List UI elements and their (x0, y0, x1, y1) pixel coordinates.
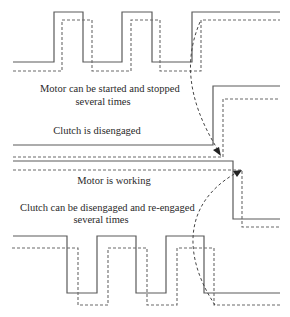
clutch-signal-dashed-top (13, 20, 280, 71)
clutch-disengaged-label: Clutch is disengaged (40, 125, 154, 137)
motor-start-stop-label-line1: Motor can be started and stopped (40, 83, 166, 95)
clutch-reengage-label-line1: Clutch can be disengaged and re-engaged (20, 202, 182, 214)
arrowhead-upper-icon (213, 147, 221, 156)
clutch-signal-dashed-bottom (12, 248, 280, 305)
timing-diagram (0, 0, 290, 317)
arrowhead-lower-icon (233, 170, 242, 177)
clutch-reengage-label-line2: several times (20, 214, 182, 226)
motor-start-stop-label-line2: several times (40, 96, 166, 108)
motor-working-label: Motor is working (70, 175, 158, 187)
